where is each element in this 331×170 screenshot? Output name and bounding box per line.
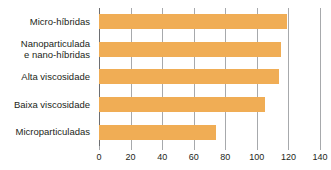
tick-mark-60 bbox=[194, 146, 195, 150]
gridline-140 bbox=[320, 8, 321, 146]
category-axis: Micro-híbridas Nanoparticulada e nano-hí… bbox=[0, 8, 95, 146]
category-label-alta-viscosidade: Alta viscosidade bbox=[0, 63, 95, 91]
tick-mark-100 bbox=[257, 146, 258, 150]
tick-mark-40 bbox=[162, 146, 163, 150]
bar-alta-viscosidade bbox=[99, 69, 279, 84]
tick-label-40: 40 bbox=[157, 152, 167, 162]
tick-label-0: 0 bbox=[96, 152, 101, 162]
category-label-baixa-viscosidade: Baixa viscosidade bbox=[0, 91, 95, 119]
value-axis: 020406080100120140 bbox=[99, 146, 320, 170]
bar-micro-hibridas bbox=[99, 14, 287, 29]
bar-nanoparticulada-e-nano-hibridas bbox=[99, 42, 281, 57]
bars-series bbox=[99, 8, 320, 146]
tick-label-80: 80 bbox=[220, 152, 230, 162]
bar-chart: Micro-híbridas Nanoparticulada e nano-hí… bbox=[0, 0, 331, 170]
tick-mark-80 bbox=[225, 146, 226, 150]
category-label-micro-hibridas: Micro-híbridas bbox=[0, 8, 95, 36]
tick-mark-0 bbox=[99, 146, 100, 150]
bar-row bbox=[99, 8, 287, 36]
tick-label-100: 100 bbox=[249, 152, 264, 162]
category-label-nanoparticulada-e-nano-hibridas: Nanoparticulada e nano-híbridas bbox=[0, 36, 95, 64]
tick-label-60: 60 bbox=[189, 152, 199, 162]
bar-row bbox=[99, 63, 279, 91]
tick-label-20: 20 bbox=[126, 152, 136, 162]
bar-row bbox=[99, 36, 281, 64]
category-label-microparticuladas: Microparticuladas bbox=[0, 118, 95, 146]
tick-mark-20 bbox=[131, 146, 132, 150]
bar-baixa-viscosidade bbox=[99, 97, 265, 112]
plot-area bbox=[99, 8, 320, 146]
bar-row bbox=[99, 118, 216, 146]
tick-label-120: 120 bbox=[281, 152, 296, 162]
tick-mark-120 bbox=[288, 146, 289, 150]
bar-row bbox=[99, 91, 265, 119]
bar-microparticuladas bbox=[99, 125, 216, 140]
tick-mark-140 bbox=[320, 146, 321, 150]
tick-label-140: 140 bbox=[312, 152, 327, 162]
